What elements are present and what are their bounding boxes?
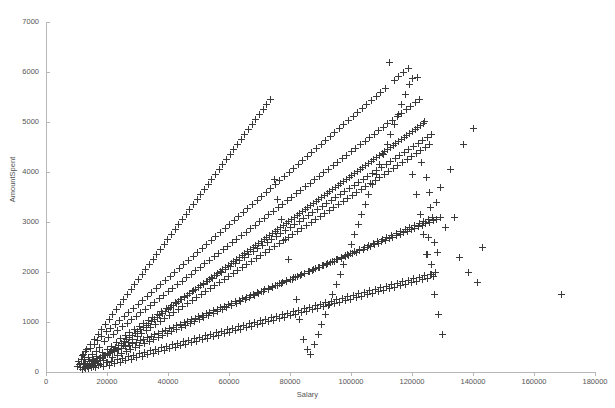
- data-point-marker: [239, 252, 246, 259]
- data-point-marker: [208, 274, 215, 281]
- data-point-marker: [373, 171, 380, 178]
- data-point-marker: [169, 285, 176, 292]
- data-point-marker: [79, 352, 86, 359]
- data-point-marker: [153, 285, 160, 292]
- data-point-marker: [366, 134, 373, 141]
- data-point-marker: [353, 249, 360, 256]
- data-point-marker: [339, 155, 346, 162]
- data-point-marker: [147, 324, 154, 331]
- data-point-marker: [148, 289, 155, 296]
- data-point-marker: [189, 288, 196, 295]
- y-tick-mark: [46, 122, 50, 123]
- data-point-marker: [427, 271, 434, 278]
- data-point-marker: [364, 173, 371, 180]
- data-point-marker: [479, 244, 486, 251]
- data-point-marker: [219, 161, 226, 168]
- data-point-marker: [100, 357, 107, 364]
- data-point-marker: [168, 231, 175, 238]
- data-point-marker: [87, 345, 94, 352]
- data-point-marker: [265, 211, 272, 218]
- data-point-marker: [221, 330, 228, 337]
- data-point-marker: [235, 213, 242, 220]
- data-point-marker: [354, 168, 361, 175]
- data-point-marker: [197, 264, 204, 271]
- data-point-marker: [391, 77, 398, 84]
- data-point-marker: [109, 354, 116, 361]
- data-point-marker: [182, 341, 189, 348]
- data-point-marker: [236, 254, 243, 261]
- data-point-marker: [195, 284, 202, 291]
- data-point-marker: [344, 195, 351, 202]
- data-point-marker: [163, 343, 170, 350]
- data-point-marker: [375, 288, 382, 295]
- data-point-marker: [365, 191, 372, 198]
- data-point-marker: [321, 192, 328, 199]
- data-point-marker: [88, 362, 95, 369]
- data-point-marker: [343, 152, 350, 159]
- data-point-marker: [167, 304, 174, 311]
- data-point-marker: [291, 214, 298, 221]
- data-point-marker: [234, 267, 241, 274]
- data-point-marker: [214, 308, 221, 315]
- data-point-marker: [358, 211, 365, 218]
- data-point-marker: [261, 286, 268, 293]
- data-point-marker: [125, 353, 132, 360]
- data-point-marker: [123, 348, 130, 355]
- data-point-marker: [148, 318, 155, 325]
- data-point-marker: [217, 229, 224, 236]
- data-point-marker: [409, 75, 416, 82]
- data-point-marker: [190, 253, 197, 260]
- data-point-marker: [143, 322, 150, 329]
- data-point-marker: [409, 171, 416, 178]
- data-point-marker: [247, 225, 254, 232]
- data-point-marker: [179, 278, 186, 285]
- data-point-marker: [340, 178, 347, 185]
- data-point-marker: [203, 310, 210, 317]
- x-tick-mark: [229, 372, 230, 376]
- data-point-marker: [362, 201, 369, 208]
- data-point-marker: [103, 359, 110, 366]
- data-point-marker: [166, 325, 173, 332]
- data-point-marker: [333, 296, 340, 303]
- data-point-marker: [394, 113, 401, 120]
- data-point-marker: [333, 281, 340, 288]
- data-point-marker: [426, 189, 433, 196]
- scatter-plot-figure: 01000200030004000500060007000 0200004000…: [0, 0, 615, 408]
- data-point-marker: [161, 347, 168, 354]
- data-point-marker: [358, 293, 365, 300]
- data-point-marker: [270, 317, 277, 324]
- data-point-marker: [248, 258, 255, 265]
- data-point-marker: [383, 283, 390, 290]
- data-point-marker: [331, 129, 338, 136]
- data-point-marker: [342, 297, 349, 304]
- data-point-marker: [263, 101, 270, 108]
- data-point-marker: [184, 292, 191, 299]
- data-point-marker: [245, 251, 252, 258]
- data-point-marker: [413, 150, 420, 157]
- x-tick-mark: [473, 372, 474, 376]
- data-point-marker: [257, 252, 264, 259]
- data-point-marker: [287, 276, 294, 283]
- data-point-marker: [304, 204, 311, 211]
- data-point-marker: [428, 261, 435, 268]
- data-point-marker: [104, 351, 111, 358]
- data-point-marker: [364, 291, 371, 298]
- data-point-marker: [112, 321, 119, 328]
- data-point-marker: [252, 222, 259, 229]
- data-point-marker: [139, 297, 146, 304]
- data-point-marker: [333, 256, 340, 263]
- data-point-marker: [77, 364, 84, 371]
- data-point-marker: [188, 316, 195, 323]
- data-point-marker: [364, 244, 371, 251]
- data-point-marker: [109, 311, 116, 318]
- data-point-marker: [146, 338, 153, 345]
- data-point-marker: [332, 184, 339, 191]
- data-point-marker: [264, 239, 271, 246]
- data-point-marker: [157, 318, 164, 325]
- data-point-marker: [263, 189, 270, 196]
- data-point-marker: [104, 350, 111, 357]
- data-point-marker: [321, 210, 328, 217]
- data-point-marker: [142, 266, 149, 273]
- data-point-marker: [337, 180, 344, 187]
- data-point-marker: [111, 348, 118, 355]
